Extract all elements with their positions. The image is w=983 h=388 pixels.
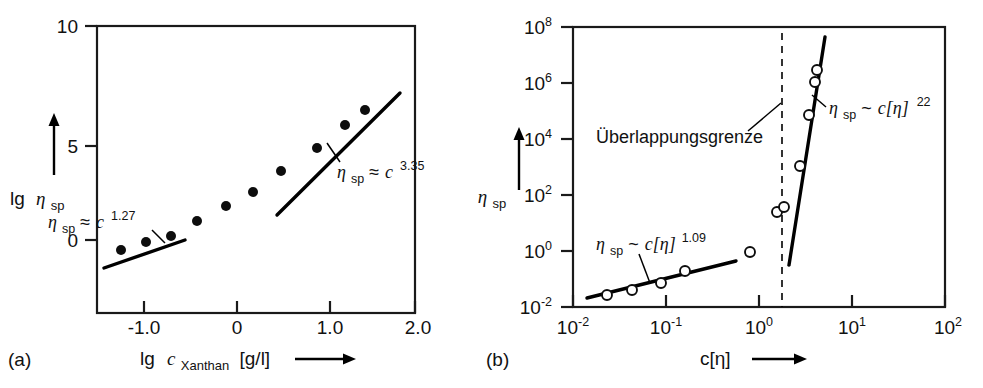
panel-b-xtick-1e2: 102 — [934, 315, 962, 338]
panel-a-xtick-neg1: -1.0 — [128, 317, 161, 338]
panel-a-label: (a) — [8, 349, 31, 370]
panel-b-xlabel: c[η] — [700, 348, 731, 369]
panel-a-annotation-1: η sp ≈ c 1.27 — [48, 209, 135, 237]
panel-b-x-ticks — [573, 295, 945, 307]
panel-a-ytick-5: 5 — [67, 136, 78, 157]
panel-a-xtick-2: 2.0 — [405, 317, 431, 338]
panel-a-annotation-2: η sp ≈ c 3.35 — [337, 159, 424, 187]
panel-a-annotation-1-leader — [152, 230, 165, 243]
panel-a-x-axis-arrow-icon — [295, 354, 356, 365]
panel-a-xtick-1: 1.0 — [317, 317, 343, 338]
panel-b-ytick-1e0: 100 — [524, 239, 552, 262]
panel-b-ytick-1e4: 104 — [524, 127, 552, 150]
figure-svg: 10 5 0 -1.0 0 1.0 2.0 lg η sp lg c Xanth… — [0, 0, 983, 388]
panel-b-overlap-label: Überlappungsgrenze — [596, 127, 763, 147]
panel-b-annotation-1: η sp ~ c[η] 1.09 — [596, 231, 706, 259]
panel-a-x-ticks — [144, 301, 415, 313]
panel-b-x-axis-arrow-icon — [752, 354, 807, 365]
panel-b-axes-frame — [573, 27, 945, 307]
panel-b-xtick-1e-1: 10-1 — [650, 315, 682, 338]
panel-b: 108 106 104 102 100 10-2 10-2 10-1 — [478, 15, 962, 370]
panel-b-ytick-1e2: 102 — [524, 183, 552, 206]
panel-b-xtick-1e0: 100 — [745, 315, 773, 338]
panel-b-y-axis-arrow-icon — [514, 127, 525, 190]
panel-b-annotation-2: η sp ~ c[η] 22 — [829, 95, 931, 123]
panel-b-annotation-1-leader — [639, 254, 650, 283]
panel-b-y-ticks — [561, 27, 573, 307]
panel-a-y-ticks — [85, 26, 97, 240]
panel-a-ytick-10: 10 — [57, 16, 78, 37]
panel-b-ytick-1e6: 106 — [524, 71, 552, 94]
panel-a-fit-line-2 — [277, 93, 400, 215]
panel-b-ytick-1e-2: 10-2 — [520, 295, 552, 318]
panel-b-ytick-1e8: 108 — [524, 15, 552, 38]
panel-a-xlabel: lg c Xanthan [g/l] — [140, 348, 270, 374]
panel-b-xtick-1e-2: 10-2 — [557, 315, 589, 338]
panel-a: 10 5 0 -1.0 0 1.0 2.0 lg η sp lg c Xanth… — [8, 16, 431, 374]
panel-b-ylabel: η sp — [478, 186, 506, 211]
panel-a-xtick-0: 0 — [232, 317, 243, 338]
panel-a-y-axis-arrow-icon — [49, 113, 60, 175]
figure-container: 10 5 0 -1.0 0 1.0 2.0 lg η sp lg c Xanth… — [0, 0, 983, 388]
panel-a-ylabel: lg η sp — [10, 188, 65, 213]
panel-b-label: (b) — [486, 349, 509, 370]
panel-b-xtick-1e1: 101 — [838, 315, 866, 338]
